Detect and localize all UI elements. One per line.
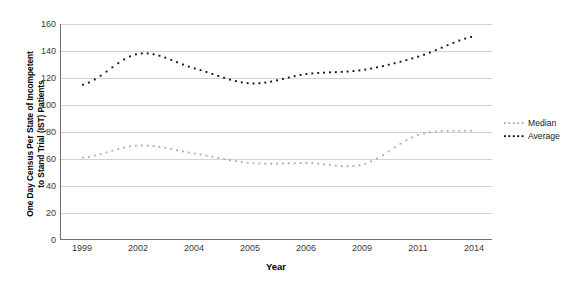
data-point xyxy=(100,153,102,155)
data-point xyxy=(370,161,372,163)
data-point xyxy=(141,52,143,54)
data-point xyxy=(370,68,372,70)
legend-swatch-icon xyxy=(503,118,525,128)
data-point xyxy=(458,130,460,132)
data-point xyxy=(305,73,307,75)
data-point xyxy=(311,72,313,74)
data-point xyxy=(282,78,284,80)
data-point xyxy=(135,145,137,147)
data-point xyxy=(417,134,419,136)
data-point xyxy=(305,162,307,164)
x-axis-tick-label: 2005 xyxy=(227,243,273,253)
data-point xyxy=(194,68,196,70)
data-point xyxy=(382,154,384,156)
data-point xyxy=(217,157,219,159)
data-point xyxy=(247,162,249,164)
data-point xyxy=(94,155,96,157)
data-point xyxy=(264,82,266,84)
data-point xyxy=(429,131,431,133)
data-point xyxy=(329,164,331,166)
data-point xyxy=(429,52,431,54)
data-point xyxy=(394,62,396,64)
data-point xyxy=(123,58,125,60)
data-point xyxy=(188,66,190,68)
data-point xyxy=(206,71,208,73)
data-point xyxy=(400,143,402,145)
data-point xyxy=(164,147,166,149)
data-point xyxy=(335,71,337,73)
data-point xyxy=(323,163,325,165)
data-point xyxy=(452,130,454,132)
data-point xyxy=(276,79,278,81)
data-point xyxy=(182,64,184,66)
data-point xyxy=(405,139,407,141)
data-point xyxy=(153,145,155,147)
x-axis-tick-label: 2004 xyxy=(171,243,217,253)
data-point xyxy=(464,130,466,132)
data-point xyxy=(88,156,90,158)
data-point xyxy=(253,162,255,164)
series-median xyxy=(82,130,472,167)
data-point xyxy=(353,165,355,167)
legend-item-median[interactable]: Median xyxy=(503,116,577,129)
y-axis-tick-label: 0 xyxy=(30,235,56,245)
data-point xyxy=(335,165,337,167)
data-point xyxy=(117,148,119,150)
data-point xyxy=(294,75,296,77)
data-point xyxy=(258,82,260,84)
data-point xyxy=(311,162,313,164)
data-point xyxy=(223,77,225,79)
data-point xyxy=(458,40,460,42)
data-point xyxy=(129,145,131,147)
data-point xyxy=(347,165,349,167)
data-point xyxy=(223,158,225,160)
x-axis-tick-labels: 19992002200420052006200920112014 xyxy=(60,243,492,257)
data-point xyxy=(441,130,443,132)
legend-item-average[interactable]: Average xyxy=(503,129,577,142)
data-point xyxy=(106,151,108,153)
data-point xyxy=(158,146,160,148)
data-point xyxy=(170,148,172,150)
data-point xyxy=(176,61,178,63)
legend-swatch-icon xyxy=(503,131,525,141)
data-point xyxy=(153,53,155,55)
data-point xyxy=(464,38,466,40)
data-point xyxy=(147,145,149,147)
data-point xyxy=(200,154,202,156)
series-plot xyxy=(61,24,493,240)
data-point xyxy=(111,66,113,68)
series-average xyxy=(82,36,472,86)
data-point xyxy=(300,74,302,76)
data-point xyxy=(447,130,449,132)
data-point xyxy=(364,69,366,71)
data-point xyxy=(100,75,102,77)
data-point xyxy=(123,147,125,149)
data-point xyxy=(382,65,384,67)
x-axis-tick-label: 1999 xyxy=(59,243,105,253)
data-point xyxy=(206,155,208,157)
data-point xyxy=(400,61,402,63)
data-point xyxy=(211,73,213,75)
data-point xyxy=(423,132,425,134)
data-point xyxy=(194,153,196,155)
chart-legend: MedianAverage xyxy=(503,116,577,142)
data-point xyxy=(288,162,290,164)
y-axis-tick-label: 40 xyxy=(30,181,56,191)
data-point xyxy=(158,55,160,57)
data-point xyxy=(323,72,325,74)
data-point xyxy=(317,163,319,165)
data-point xyxy=(411,57,413,59)
x-axis-tick-label: 2002 xyxy=(115,243,161,253)
data-point xyxy=(353,70,355,72)
data-point xyxy=(270,163,272,165)
data-point xyxy=(229,159,231,161)
data-point xyxy=(447,44,449,46)
chart-container: One Day Census Per State of Incompetent … xyxy=(0,0,580,286)
data-point xyxy=(288,77,290,79)
data-point xyxy=(276,163,278,165)
data-point xyxy=(388,64,390,66)
y-axis-tick-label: 80 xyxy=(30,127,56,137)
data-point xyxy=(294,162,296,164)
data-point xyxy=(317,72,319,74)
data-point xyxy=(394,147,396,149)
